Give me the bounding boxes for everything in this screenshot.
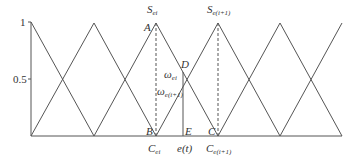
label-omega-ei1: ωe(i+1) (157, 86, 183, 99)
y-tick-label-0.5: 0.5 (13, 74, 27, 85)
label-c-ei: Cei (148, 143, 160, 156)
label-c-ei1: Ce(i+1) (206, 143, 231, 156)
label-D: D (181, 59, 189, 70)
label-E: E (185, 126, 192, 137)
label-s-ei: Sei (147, 4, 158, 17)
label-C: C (208, 126, 215, 137)
y-tick-label-1: 1 (20, 17, 26, 28)
triangle-5 (218, 23, 342, 136)
label-B: B (146, 126, 153, 137)
membership-function-plot (0, 0, 356, 160)
label-s-ei1: Se(i+1) (207, 4, 230, 17)
triangle-2 (31, 23, 156, 136)
label-omega-ei: ωei (164, 69, 177, 82)
label-e-t: e(t) (177, 143, 192, 154)
label-A: A (144, 22, 151, 33)
